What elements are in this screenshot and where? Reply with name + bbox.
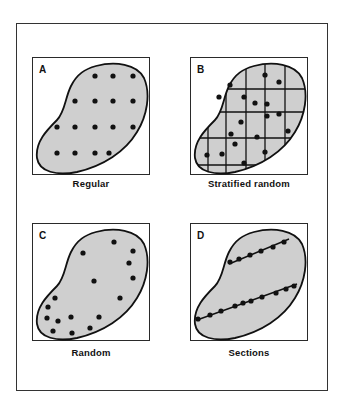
sample-point [264, 101, 269, 106]
sample-point [232, 303, 237, 308]
sample-point [283, 286, 288, 291]
sample-point [227, 82, 232, 87]
sample-point [54, 124, 59, 129]
sample-point [262, 72, 267, 77]
panel-stratified-random: B [190, 57, 308, 175]
sample-point [130, 73, 135, 78]
caption-random: Random [16, 347, 166, 358]
sampling-methods-figure: A Regular B Stratified random C Random D… [0, 0, 343, 408]
sample-point [72, 98, 77, 103]
panel-letter: C [39, 230, 46, 241]
panel-sections: D [190, 223, 308, 341]
sample-point [50, 328, 55, 333]
blob-diagram [33, 224, 151, 342]
sample-point [126, 260, 131, 265]
sample-point [207, 312, 212, 317]
sample-point [258, 248, 263, 253]
sample-point [130, 98, 135, 103]
sample-point [276, 79, 281, 84]
sample-point [204, 152, 209, 157]
sample-point [87, 325, 92, 330]
sampling-area-shape [37, 230, 148, 340]
sample-point [281, 239, 286, 244]
sample-point [52, 295, 57, 300]
sample-point [228, 131, 233, 136]
blob-diagram [191, 58, 309, 176]
sample-point [91, 278, 96, 283]
sample-point [216, 94, 221, 99]
sample-point [285, 128, 290, 133]
sample-point [110, 98, 115, 103]
panel-letter: B [197, 64, 204, 75]
sampling-area-shape [37, 64, 148, 174]
sample-point [254, 134, 259, 139]
sample-point [270, 244, 275, 249]
blob-diagram [33, 58, 151, 176]
sample-point [227, 259, 232, 264]
sample-point [45, 304, 50, 309]
sample-point [68, 314, 73, 319]
sample-point [232, 141, 237, 146]
sample-point [238, 119, 243, 124]
sample-point [264, 113, 269, 118]
sample-point [111, 239, 116, 244]
caption-stratified-random: Stratified random [174, 178, 324, 189]
sample-point [262, 149, 267, 154]
sample-point [96, 314, 101, 319]
sample-point [130, 275, 135, 280]
panel-letter: A [39, 64, 46, 75]
panel-letter: D [197, 230, 204, 241]
sampling-area-shape [195, 230, 306, 340]
sample-point [110, 124, 115, 129]
sample-point [72, 124, 77, 129]
sample-point [130, 248, 135, 253]
sample-point [130, 124, 135, 129]
panel-regular: A [32, 57, 150, 175]
sample-point [248, 298, 253, 303]
sample-point [110, 73, 115, 78]
sample-point [72, 150, 77, 155]
blob-diagram [191, 224, 309, 342]
sample-point [291, 283, 296, 288]
sample-point [241, 160, 246, 165]
sample-point [92, 73, 97, 78]
sample-point [276, 111, 281, 116]
sample-point [252, 100, 257, 105]
sample-point [273, 290, 278, 295]
sampling-area-shape [195, 64, 306, 174]
sample-point [219, 151, 224, 156]
caption-sections: Sections [174, 347, 324, 358]
sample-point [195, 316, 200, 321]
sample-point [236, 256, 241, 261]
sample-point [240, 300, 245, 305]
sample-point [54, 150, 59, 155]
sample-point [117, 295, 122, 300]
panel-random: C [32, 223, 150, 341]
sample-point [55, 318, 60, 323]
sample-point [218, 308, 223, 313]
sample-point [92, 98, 97, 103]
sample-point [92, 150, 97, 155]
sample-point [80, 250, 85, 255]
sample-point [92, 124, 97, 129]
sample-point [241, 94, 246, 99]
sample-point [247, 252, 252, 257]
caption-regular: Regular [16, 178, 166, 189]
sample-point [106, 150, 111, 155]
sample-point [259, 294, 264, 299]
sample-point [44, 315, 49, 320]
sample-point [69, 330, 74, 335]
